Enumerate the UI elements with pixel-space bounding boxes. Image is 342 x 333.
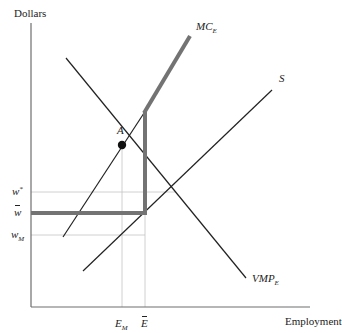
w-bar-main: w [14,207,21,218]
point-a-label: A [117,125,124,136]
vmp-label-main: VMP [252,272,275,284]
mc-label-main: MC [196,20,213,32]
vmp-curve-label: VMPE [252,273,279,287]
guide-lines [31,145,176,307]
e-bar-label: E [141,318,148,329]
e-m-main: E [115,317,122,329]
e-bar-main: E [141,318,148,329]
mc-label-sub: E [213,27,217,35]
e-m-sub: M [122,324,128,332]
x-axis-label: Employment [285,316,342,327]
supply-curve [83,90,272,271]
mc-curve-thick [144,36,190,113]
w-star-mark: * [19,185,23,193]
point-a [118,141,126,149]
w-m-sub: M [18,235,24,243]
e-m-label: EM [115,318,128,332]
supply-curve-label: S [279,73,285,84]
w-bar-label: w [14,207,21,218]
mc-curve-label: MCE [196,21,217,35]
mc-curve-thin [63,110,146,237]
effective-mc-path [31,36,190,215]
vmp-label-sub: E [275,279,279,287]
w-m-label: wM [11,229,24,243]
w-star-label: w* [12,186,23,197]
y-axis-label: Dollars [14,8,46,19]
